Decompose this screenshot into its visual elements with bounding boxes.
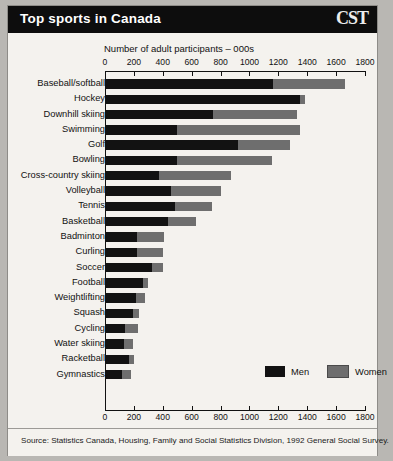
bar-segment-women [152, 263, 163, 272]
x-axis-tick [163, 71, 164, 76]
category-label: Golf [0, 139, 105, 149]
bar-segment-men [105, 232, 137, 241]
bar-segment-women [175, 202, 212, 211]
bar-segment-men [105, 339, 124, 348]
bar-segment-women [122, 370, 131, 379]
chart-header: Top sports in Canada CST [8, 6, 377, 33]
bar-segment-women [238, 140, 290, 149]
bar-segment-men [105, 324, 125, 333]
bar-segment-men [105, 171, 159, 180]
bar-segment-women [124, 339, 133, 348]
x-tick-label: 1000 [240, 57, 259, 67]
chart-bar-row: Basketball [8, 215, 377, 230]
category-label: Baseball/softball [0, 78, 105, 88]
category-label: Tennis [0, 200, 105, 210]
category-label: Soccer [0, 262, 105, 272]
category-label: Water skiing [0, 338, 105, 348]
bar-segment-women [177, 156, 272, 165]
legend-label-men: Men [291, 367, 309, 377]
source-note: Source: Statistics Canada, Housing, Fami… [21, 436, 389, 445]
chart-bar-row: Hockey [8, 92, 377, 107]
chart-bar-row: Cycling [8, 322, 377, 337]
category-label: Weightlifting [0, 292, 105, 302]
x-axis-tick [221, 406, 222, 411]
x-axis-title: Number of adult participants – 000s [104, 43, 254, 54]
x-tick-label: 1600 [327, 57, 346, 67]
x-axis-line [105, 71, 366, 72]
bar-segment-women [273, 79, 345, 88]
category-label: Cycling [0, 323, 105, 333]
x-tick-label: 1000 [240, 412, 259, 422]
legend-swatch-men [265, 366, 285, 377]
chart-bar-row: Weightlifting [8, 291, 377, 306]
chart-bar-row: Downhill skiing [8, 108, 377, 123]
x-axis-tick [278, 406, 279, 411]
bar-segment-men [105, 355, 129, 364]
bar-segment-men [105, 156, 177, 165]
bar-segment-women [125, 324, 138, 333]
x-axis-tick [365, 406, 366, 411]
x-tick-label: 0 [103, 57, 108, 67]
x-axis-line [105, 410, 366, 411]
chart-bar-row: Baseball/softball [8, 77, 377, 92]
x-tick-label: 400 [156, 57, 170, 67]
x-tick-label: 200 [127, 412, 141, 422]
chart-plot-area: Number of adult participants – 000s 0200… [8, 33, 377, 428]
chart-bar-row: Water skiing [8, 337, 377, 352]
chart-bar-row: Squash [8, 306, 377, 321]
category-label: Badminton [0, 231, 105, 241]
x-tick-label: 1200 [269, 57, 288, 67]
x-axis-tick [163, 406, 164, 411]
bar-segment-women [143, 278, 149, 287]
bar-segment-men [105, 140, 238, 149]
chart-source-bar: Source: Statistics Canada, Housing, Fami… [8, 428, 377, 456]
x-axis-tick [336, 71, 337, 76]
x-axis-tick [192, 71, 193, 76]
chart-bar-row: Swimming [8, 123, 377, 138]
x-tick-label: 600 [184, 57, 198, 67]
bar-segment-women [137, 232, 164, 241]
page-title: Top sports in Canada [20, 11, 161, 26]
bar-segment-men [105, 95, 300, 104]
bar-segment-women [168, 217, 196, 226]
x-tick-label: 1600 [327, 412, 346, 422]
bar-segment-women [129, 355, 134, 364]
category-label: Bowling [0, 154, 105, 164]
category-label: Volleyball [0, 185, 105, 195]
x-axis-tick [307, 406, 308, 411]
bar-segment-men [105, 202, 175, 211]
chart-bar-row: Badminton [8, 230, 377, 245]
bar-segment-women [171, 186, 222, 195]
x-axis-tick [249, 71, 250, 76]
x-axis-tick [134, 71, 135, 76]
chart-bar-row: Cross-country skiing [8, 169, 377, 184]
chart-bar-row: Golf [8, 138, 377, 153]
x-tick-label: 800 [213, 57, 227, 67]
chart-bar-row: Tennis [8, 199, 377, 214]
chart-bar-row: Bowling [8, 153, 377, 168]
chart-bar-row: Soccer [8, 261, 377, 276]
bar-segment-women [136, 293, 145, 302]
bar-rows: Baseball/softballHockeyDownhill skiingSw… [8, 77, 377, 383]
bar-segment-men [105, 125, 177, 134]
x-tick-label: 1400 [298, 412, 317, 422]
x-tick-label: 200 [127, 57, 141, 67]
bar-segment-men [105, 79, 273, 88]
chart-bar-row: Football [8, 276, 377, 291]
category-label: Gymnastics [0, 369, 105, 379]
bar-segment-women [133, 309, 139, 318]
category-label: Downhill skiing [0, 109, 105, 119]
x-tick-label: 1800 [355, 412, 374, 422]
bar-segment-men [105, 263, 152, 272]
cst-logo: CST [336, 8, 368, 29]
x-tick-label: 1400 [298, 57, 317, 67]
x-axis-tick [365, 71, 366, 76]
x-axis-tick [307, 71, 308, 76]
legend-label-women: Women [355, 367, 387, 377]
bar-segment-men [105, 217, 168, 226]
x-axis-tick [134, 406, 135, 411]
category-label: Basketball [0, 216, 105, 226]
x-tick-label: 1800 [355, 57, 374, 67]
bar-segment-men [105, 110, 213, 119]
category-label: Cross-country skiing [0, 170, 105, 180]
